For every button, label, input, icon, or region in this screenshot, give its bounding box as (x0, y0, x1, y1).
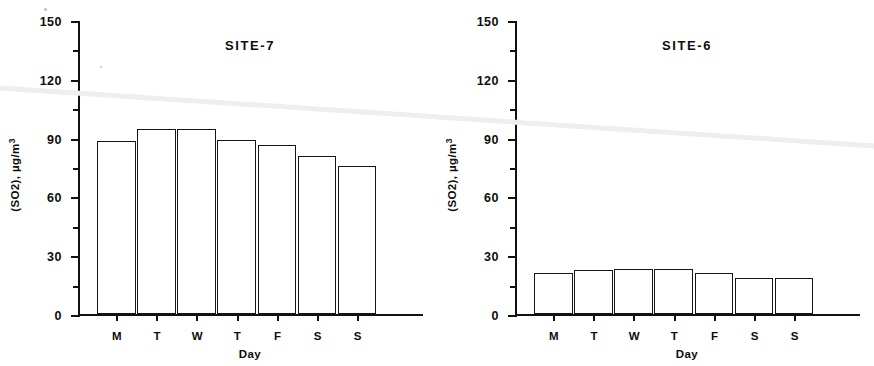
bar-t-3 (654, 269, 693, 314)
dust-speck (100, 66, 102, 68)
y-tick-label: 90 (484, 133, 499, 147)
chart-panel-site-7: SITE-7 (SO2), µg/m3 0306090120150 MTWTFS… (0, 0, 437, 366)
bar-s-5 (735, 278, 774, 314)
x-tick (156, 315, 158, 321)
x-axis-label-site-6: Day (676, 348, 698, 360)
y-tick-label: 30 (47, 250, 62, 264)
x-tick-label: W (629, 330, 640, 342)
x-tick-label: M (112, 330, 122, 342)
y-tick-label: 120 (477, 74, 499, 88)
y-axis-label-site-7: (SO2), µg/m3 (7, 138, 22, 212)
bar-m-0 (97, 141, 136, 314)
bar-f-4 (258, 145, 297, 314)
bar-s-6 (775, 278, 814, 314)
x-tick (317, 315, 319, 321)
y-axis-label-text: (SO2), µg/m (446, 143, 458, 212)
x-tick (674, 315, 676, 321)
x-tick (116, 315, 118, 321)
x-tick (277, 315, 279, 321)
x-tick (237, 315, 239, 321)
y-tick-major: 0 (508, 315, 517, 317)
y-tick-label: 90 (47, 133, 62, 147)
x-tick-label: M (549, 330, 559, 342)
bar-series-site-7 (78, 22, 423, 314)
x-axis-line (78, 314, 423, 316)
x-tick-label: T (234, 330, 242, 342)
x-tick (196, 315, 198, 321)
x-tick-label: T (671, 330, 679, 342)
y-tick-label: 30 (484, 250, 499, 264)
bar-s-5 (298, 156, 337, 314)
y-axis-label-site-6: (SO2), µg/m3 (444, 138, 459, 212)
x-tick (714, 315, 716, 321)
y-axis-label-exponent: 3 (7, 138, 17, 143)
y-tick-label: 60 (484, 191, 499, 205)
x-tick-label: S (354, 330, 362, 342)
x-tick (754, 315, 756, 321)
bar-w-2 (177, 129, 216, 314)
figure-canvas: SITE-7 (SO2), µg/m3 0306090120150 MTWTFS… (0, 0, 874, 366)
bar-s-6 (338, 166, 377, 314)
y-tick-label: 120 (40, 74, 62, 88)
plot-area-site-7: 0306090120150 MTWTFSS (78, 22, 423, 316)
x-tick (553, 315, 555, 321)
bar-m-0 (534, 273, 573, 314)
bar-w-2 (614, 269, 653, 314)
x-tick-label: T (590, 330, 598, 342)
chart-panel-site-6: SITE-6 (SO2), µg/m3 0306090120150 MTWTFS… (437, 0, 874, 366)
plot-area-site-6: 0306090120150 MTWTFSS (515, 22, 860, 316)
y-tick-label: 150 (40, 15, 62, 29)
x-axis-line (515, 314, 860, 316)
x-tick-label: S (751, 330, 759, 342)
x-axis-label-site-7: Day (239, 348, 261, 360)
bar-t-1 (137, 129, 176, 314)
y-tick-label: 60 (47, 191, 62, 205)
y-tick-label: 0 (55, 309, 62, 323)
x-tick (357, 315, 359, 321)
x-tick-label: F (274, 330, 282, 342)
dust-speck (44, 8, 47, 11)
bar-t-3 (217, 140, 256, 314)
bar-f-4 (695, 273, 734, 314)
x-tick (633, 315, 635, 321)
y-tick-major: 0 (71, 315, 80, 317)
y-tick-label: 0 (492, 309, 499, 323)
x-tick-label: W (192, 330, 203, 342)
x-tick-label: S (314, 330, 322, 342)
x-tick (593, 315, 595, 321)
x-tick-label: F (711, 330, 719, 342)
x-tick (794, 315, 796, 321)
y-axis-label-text: (SO2), µg/m (9, 143, 21, 212)
y-axis-label-exponent: 3 (444, 138, 454, 143)
bar-t-1 (574, 270, 613, 314)
x-tick-label: S (791, 330, 799, 342)
bar-series-site-6 (515, 22, 860, 314)
y-tick-label: 150 (477, 15, 499, 29)
x-tick-label: T (153, 330, 161, 342)
